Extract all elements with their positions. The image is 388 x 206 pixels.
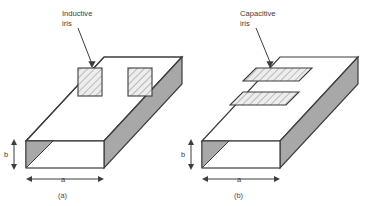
dimension-b-label-a: b [4, 150, 8, 159]
waveguide-iris-figure: Inductive iris b a (a) [0, 0, 388, 206]
inductive-iris-left-plate [78, 68, 102, 96]
dimension-b-label-b: b [181, 150, 185, 159]
panel-b-caption: (b) [234, 191, 243, 200]
inductive-iris-label-line1: Inductive [62, 9, 92, 18]
capacitive-iris-lower-plate [230, 92, 299, 105]
capacitive-iris-upper-plate [243, 68, 312, 81]
capacitive-iris-label-line1: Capacitive [240, 9, 275, 18]
panel-a-caption: (a) [58, 191, 67, 200]
capacitive-iris-label-line2: iris [240, 19, 250, 28]
figure-svg: Inductive iris b a (a) [0, 0, 388, 206]
inductive-iris-label-line2: iris [62, 19, 72, 28]
inductive-iris-right-plate [128, 68, 152, 96]
